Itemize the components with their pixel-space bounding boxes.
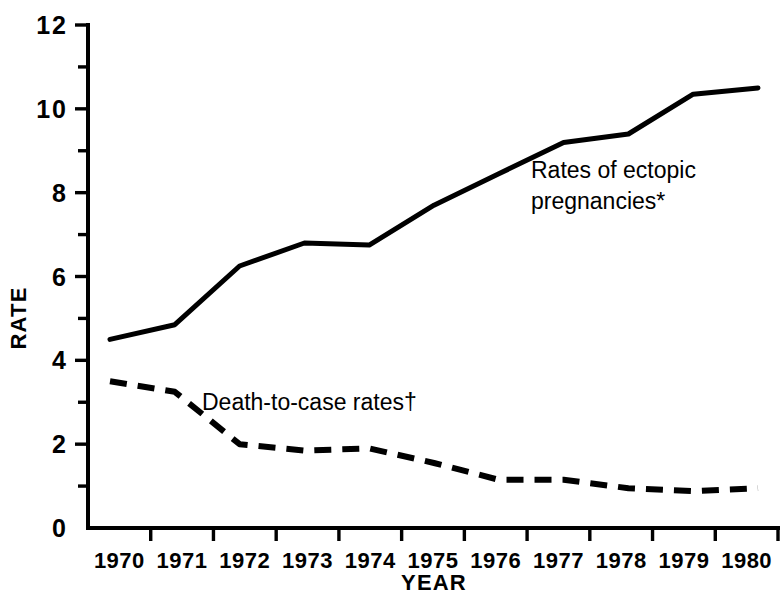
x-tick-label: 1977 xyxy=(533,548,584,573)
y-tick-label: 0 xyxy=(52,514,68,542)
axis-spine xyxy=(88,25,778,528)
x-tick-label: 1980 xyxy=(721,548,772,573)
ectopic-pregnancies-label: pregnancies* xyxy=(531,188,665,214)
y-tick-label: 10 xyxy=(36,95,68,123)
x-axis-title: YEAR xyxy=(401,570,467,594)
x-tick-label: 1972 xyxy=(219,548,270,573)
x-tick-label: 1979 xyxy=(658,548,709,573)
y-tick-label: 12 xyxy=(36,11,68,39)
x-tick-label: 1970 xyxy=(94,548,145,573)
chart-figure: 024681012 197019711972197319741975197619… xyxy=(0,0,780,594)
y-tick-label: 4 xyxy=(52,346,68,374)
y-axis-title: RATE xyxy=(6,286,31,349)
y-tick-label: 6 xyxy=(52,263,68,291)
x-tick-label: 1974 xyxy=(345,548,396,573)
y-tick-label: 8 xyxy=(52,179,68,207)
y-axis-tick-labels: 024681012 xyxy=(36,11,68,542)
x-tick-label: 1978 xyxy=(596,548,647,573)
x-tick-label: 1976 xyxy=(470,548,521,573)
y-tick-label: 2 xyxy=(52,430,68,458)
axis-lines xyxy=(88,25,778,528)
x-tick-label: 1971 xyxy=(157,548,208,573)
x-tick-label: 1973 xyxy=(282,548,333,573)
death-to-case-label: Death-to-case rates† xyxy=(202,389,417,415)
ectopic-pregnancies-label: Rates of ectopic xyxy=(531,157,696,183)
data-series-group xyxy=(110,88,758,491)
line-chart-canvas: 024681012 197019711972197319741975197619… xyxy=(0,0,780,594)
